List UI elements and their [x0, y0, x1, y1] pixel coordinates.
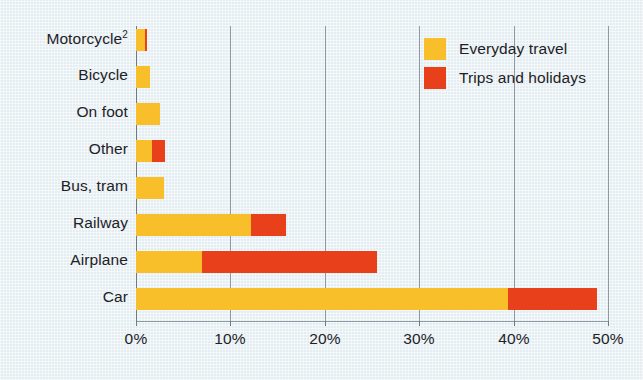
legend-label-everyday-travel: Everyday travel — [459, 40, 567, 58]
tickmark-0 — [136, 321, 137, 326]
xtick-label-0: 0% — [106, 330, 166, 348]
category-label-bicycle: Bicycle — [0, 66, 128, 84]
xtick-label-50: 50% — [578, 330, 638, 348]
bar-segment-everyday-motorcycle — [136, 29, 145, 51]
category-label-text: Car — [103, 288, 128, 305]
legend-item-trips-and-holidays: Trips and holidays — [424, 65, 586, 90]
category-label-text: Other — [89, 140, 128, 157]
category-label-bus-tram: Bus, tram — [0, 177, 128, 195]
legend-item-everyday-travel: Everyday travel — [424, 36, 586, 61]
bar-segment-trips-car — [508, 288, 597, 310]
tickmark-10 — [230, 321, 231, 326]
xtick-label-30: 30% — [389, 330, 449, 348]
legend-swatch-icon-everyday-travel — [424, 38, 446, 60]
category-label-other: Other — [0, 140, 128, 158]
tickmark-40 — [514, 321, 515, 326]
bar-segment-trips-motorcycle — [145, 29, 148, 51]
bar-segment-trips-other — [152, 140, 165, 162]
bar-segment-trips-railway — [251, 214, 286, 236]
bar-segment-everyday-other — [136, 140, 152, 162]
category-label-text: Railway — [73, 214, 128, 231]
gridline-50 — [608, 26, 609, 322]
category-label-text: On foot — [76, 103, 128, 120]
category-label-text: Motorcycle — [46, 30, 122, 47]
xtick-label-10: 10% — [200, 330, 260, 348]
gridline-10 — [230, 26, 231, 322]
bar-segment-everyday-railway — [136, 214, 251, 236]
category-label-text: Airplane — [70, 251, 128, 268]
category-label-motorcycle: Motorcycle2 — [0, 29, 128, 48]
legend-label-trips-and-holidays: Trips and holidays — [459, 69, 586, 87]
bar-segment-everyday-airplane — [136, 251, 202, 273]
bar-segment-everyday-on-foot — [136, 103, 160, 125]
bar-segment-everyday-bicycle — [136, 66, 150, 88]
x-axis-baseline — [136, 321, 608, 322]
bar-segment-everyday-car — [136, 288, 508, 310]
legend-swatch-icon-trips-and-holidays — [424, 67, 446, 89]
category-label-railway: Railway — [0, 214, 128, 232]
bar-chart-figure: Motorcycle2 Bicycle On foot Other Bus, t… — [0, 0, 643, 380]
gridline-20 — [325, 26, 326, 322]
xtick-label-40: 40% — [484, 330, 544, 348]
category-label-on-foot: On foot — [0, 103, 128, 121]
tickmark-30 — [419, 321, 420, 326]
gridline-30 — [419, 26, 420, 322]
tickmark-20 — [325, 321, 326, 326]
category-label-text: Bus, tram — [61, 177, 128, 194]
tickmark-50 — [608, 321, 609, 326]
category-label-text: Bicycle — [78, 66, 128, 83]
category-label-airplane: Airplane — [0, 251, 128, 269]
chart-legend: Everyday travel Trips and holidays — [424, 36, 586, 94]
bar-segment-trips-airplane — [202, 251, 377, 273]
xtick-label-20: 20% — [295, 330, 355, 348]
category-label-car: Car — [0, 288, 128, 306]
bar-segment-everyday-bus-tram — [136, 177, 164, 199]
footnote-marker: 2 — [122, 29, 128, 40]
